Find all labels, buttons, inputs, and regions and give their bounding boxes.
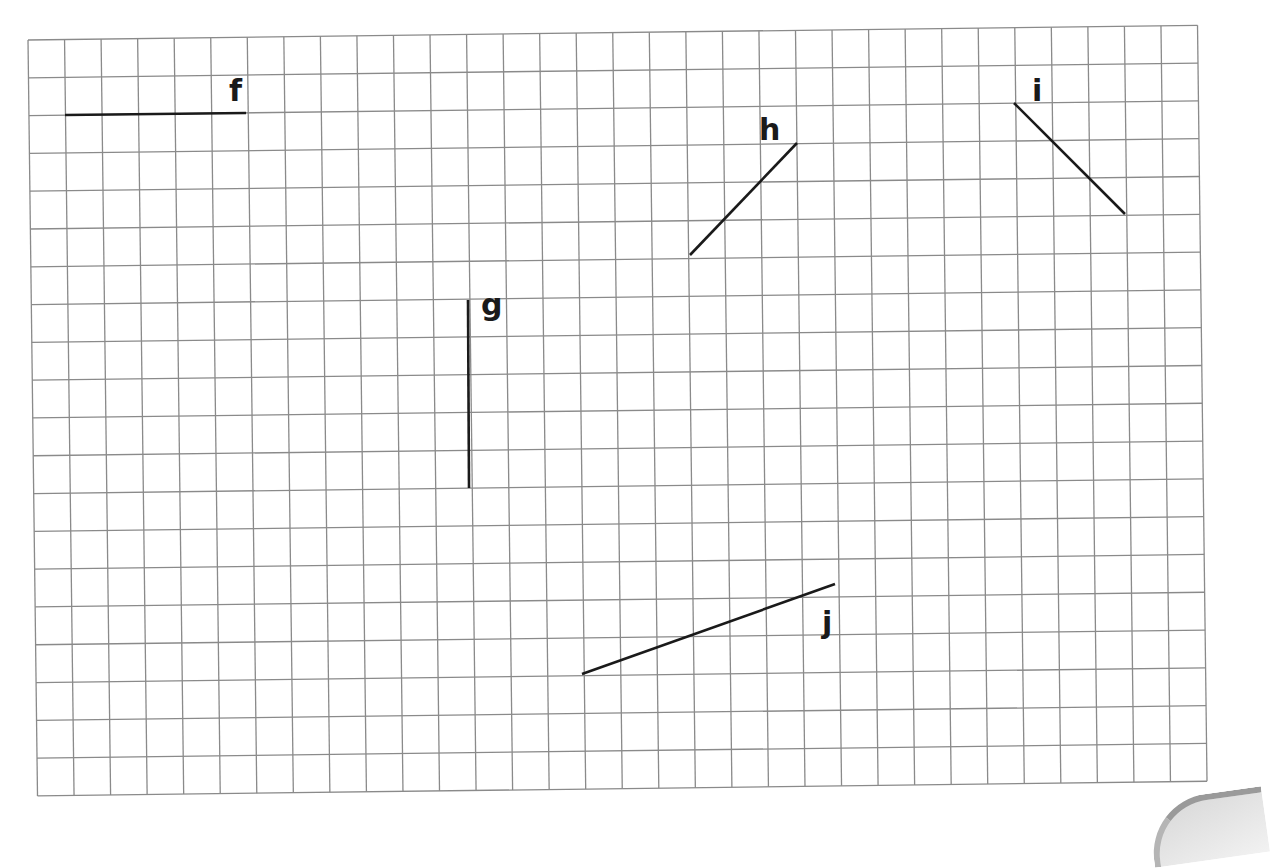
segment-f-line <box>65 113 246 115</box>
segment-g-line <box>468 300 469 488</box>
segment-g-label: g <box>481 287 502 322</box>
segment-j-label: j <box>821 605 832 640</box>
segment-h-line <box>690 143 797 255</box>
segment-g: g <box>468 287 502 488</box>
grid <box>28 25 1207 796</box>
segment-i: i <box>1014 73 1125 214</box>
segment-f-label: f <box>229 73 243 108</box>
segment-i-label: i <box>1032 73 1042 108</box>
segment-h-label: h <box>759 112 780 147</box>
segment-f: f <box>65 73 246 115</box>
segment-h: h <box>690 112 797 255</box>
segment-i-line <box>1014 103 1125 214</box>
